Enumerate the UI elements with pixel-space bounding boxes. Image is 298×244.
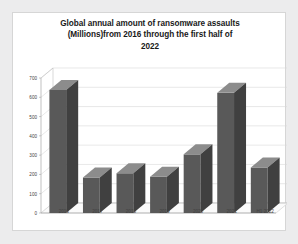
bar-2019	[150, 167, 179, 213]
bar-front-1	[83, 178, 100, 213]
column-chart-graphic	[13, 13, 287, 232]
bar-front-3	[150, 177, 167, 213]
bar-2021	[217, 83, 246, 213]
x-axis-label-H1-2022: H1 2022	[257, 209, 274, 214]
bar-2018	[117, 163, 146, 213]
bar-2017	[83, 168, 112, 213]
x-axis-label-2017: 2017	[92, 209, 102, 214]
chart-card: Global annual amount of ransomware assau…	[12, 12, 286, 231]
bar-front-6	[251, 167, 268, 213]
bar-side-4	[200, 144, 212, 213]
bar-2016	[49, 80, 78, 213]
bar-side-5	[234, 83, 246, 213]
y-axis-label-200: 200	[17, 172, 37, 177]
y-axis-label-400: 400	[17, 133, 37, 138]
bar-H1-2022	[251, 157, 280, 213]
x-axis-label-2021: 2021	[227, 209, 237, 214]
bars-group	[49, 80, 279, 213]
plot-area: 0100200300400500600700 20162017201820192…	[13, 13, 287, 232]
wall-top-connector	[41, 68, 53, 78]
y-axis-label-0: 0	[17, 211, 37, 216]
bar-side-0	[66, 80, 78, 213]
x-axis-label-2019: 2019	[159, 209, 169, 214]
x-axis-label-2018: 2018	[126, 209, 136, 214]
y-axis-label-100: 100	[17, 191, 37, 196]
bar-2020	[184, 144, 213, 213]
bar-front-0	[49, 90, 66, 213]
y-axis-label-600: 600	[17, 95, 37, 100]
y-axis-label-700: 700	[17, 76, 37, 81]
bar-front-4	[184, 154, 201, 213]
bar-front-5	[217, 93, 234, 213]
y-axis-label-300: 300	[17, 153, 37, 158]
y-axis-label-500: 500	[17, 114, 37, 119]
bar-front-2	[117, 173, 134, 213]
x-axis-label-2020: 2020	[193, 209, 203, 214]
x-axis-label-2016: 2016	[59, 209, 69, 214]
